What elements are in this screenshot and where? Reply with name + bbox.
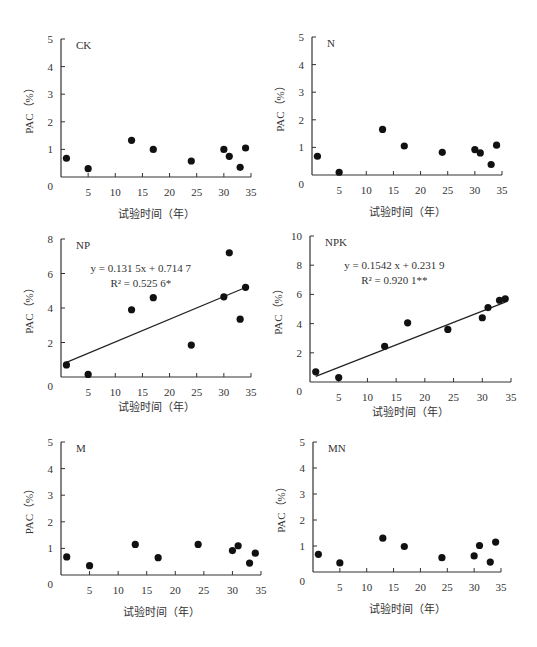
x-tick-label: 30 (477, 391, 489, 403)
chart-panel-np: 024685101520253035NPPAC（%）试验时间（年）y = 0.1… (0, 220, 270, 420)
panel-title: NPK (325, 236, 347, 248)
x-tick-label: 30 (218, 186, 230, 198)
data-point (404, 319, 411, 326)
x-tick-label: 5 (85, 386, 91, 398)
y-tick-label: 5 (300, 436, 306, 448)
x-tick-label: 20 (164, 186, 176, 198)
x-tick-label: 35 (497, 184, 509, 196)
x-axis-label: 试验时间（年） (123, 605, 200, 619)
y-tick-label: 5 (299, 31, 305, 43)
data-point (220, 293, 227, 300)
chart-panel-npk: 02468105101520253035NPKPAC（%）试验时间（年）y = … (270, 220, 537, 420)
x-tick-label: 35 (506, 391, 518, 403)
y-tick-label: 1 (48, 143, 54, 155)
data-point (242, 144, 249, 151)
data-point (188, 157, 195, 164)
x-tick-label: 10 (110, 386, 122, 398)
x-tick-label: 10 (362, 391, 374, 403)
y-tick-label: 0 (48, 380, 54, 392)
chart-panel-m: 0123455101520253035MPAC（%）试验时间（年） (0, 420, 270, 647)
y-axis-label: PAC（%） (23, 483, 35, 535)
data-point (336, 169, 343, 176)
x-tick-label: 15 (391, 391, 403, 403)
data-point (150, 294, 157, 301)
axes: 0123455101520253035 (300, 436, 508, 593)
x-tick-label: 30 (227, 584, 239, 596)
data-point (237, 316, 244, 323)
x-tick-label: 25 (198, 584, 210, 596)
y-tick-label: 6 (297, 288, 303, 300)
x-axis-label: 试验时间（年） (118, 207, 195, 220)
data-point (195, 541, 202, 548)
data-point (312, 368, 319, 375)
data-point (379, 126, 386, 133)
data-point (220, 146, 227, 153)
data-point (401, 543, 408, 550)
data-point (128, 137, 135, 144)
x-tick-label: 15 (388, 581, 400, 593)
x-tick-label: 25 (448, 391, 460, 403)
x-tick-label: 20 (170, 584, 182, 596)
data-point (132, 541, 139, 548)
x-tick-label: 15 (137, 386, 149, 398)
y-tick-label: 4 (297, 318, 303, 330)
panel-title: NP (76, 239, 90, 251)
x-tick-label: 5 (337, 581, 343, 593)
r-squared-label: R² = 0.525 6* (110, 277, 171, 289)
regression-equation: y = 0.1542 x + 0.231 9 (344, 259, 445, 271)
data-point (335, 374, 342, 381)
y-tick-label: 4 (299, 59, 305, 71)
x-tick-label: 25 (442, 184, 454, 196)
data-point (479, 314, 486, 321)
data-points (314, 126, 500, 176)
data-point (63, 553, 70, 560)
x-tick-label: 35 (246, 386, 258, 398)
axes: 0123455101520253035 (48, 436, 268, 596)
x-tick-label: 10 (110, 186, 122, 198)
y-tick-label: 4 (48, 463, 54, 475)
data-point (444, 326, 451, 333)
data-point (381, 343, 388, 350)
y-tick-label: 2 (48, 516, 54, 528)
y-tick-label: 0 (300, 575, 306, 587)
x-tick-label: 25 (442, 581, 454, 593)
y-tick-label: 1 (299, 141, 305, 153)
x-tick-label: 30 (218, 386, 230, 398)
data-point (336, 559, 343, 566)
trendline (316, 302, 506, 376)
y-tick-label: 8 (48, 233, 54, 245)
y-tick-label: 8 (297, 259, 303, 271)
x-axis-label: 试验时间（年） (369, 602, 446, 616)
y-axis-label: PAC（%） (274, 80, 286, 132)
data-point (155, 554, 162, 561)
y-tick-label: 4 (48, 61, 54, 73)
x-tick-label: 25 (191, 386, 203, 398)
chart-panel-mn: 0123455101520253035MNPAC（%）试验时间（年） (270, 420, 537, 647)
x-axis-label: 试验时间（年） (118, 400, 195, 414)
data-point (226, 153, 233, 160)
x-axis-label: 试验时间（年） (372, 405, 449, 419)
y-tick-label: 4 (48, 302, 54, 314)
data-point (229, 547, 236, 554)
y-tick-label: 2 (300, 514, 306, 526)
y-tick-label: 2 (297, 347, 303, 359)
y-tick-label: 3 (299, 86, 305, 98)
x-tick-label: 10 (361, 581, 373, 593)
data-point (86, 562, 93, 569)
axes: 0123455101520253035 (299, 31, 509, 196)
data-point (242, 284, 249, 291)
y-tick-label: 4 (300, 462, 306, 474)
y-axis-label: PAC（%） (23, 282, 35, 334)
x-tick-label: 30 (469, 581, 481, 593)
data-points (315, 535, 499, 567)
x-tick-label: 10 (113, 584, 125, 596)
y-axis-label: PAC（%） (275, 481, 287, 533)
data-point (128, 306, 135, 313)
data-point (379, 535, 386, 542)
data-point (315, 551, 322, 558)
y-tick-label: 0 (48, 578, 54, 590)
x-tick-label: 5 (336, 184, 342, 196)
data-point (237, 164, 244, 171)
data-point (63, 361, 70, 368)
data-point (438, 554, 445, 561)
